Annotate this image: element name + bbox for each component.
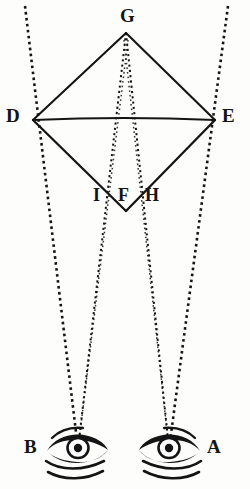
point-label-B: B — [24, 437, 37, 456]
point-label-D: D — [6, 106, 20, 125]
ray-inner-left — [78, 33, 126, 449]
point-label-G: G — [120, 6, 135, 25]
point-label-A: A — [207, 437, 221, 456]
vision-diagram-svg — [0, 0, 250, 489]
figure-root: G D E F I H B A — [0, 0, 250, 489]
eye-right — [139, 428, 201, 478]
eye-left-pupil — [74, 444, 82, 452]
eye-right-pupil — [165, 444, 173, 452]
point-label-F: F — [118, 186, 129, 204]
ray-cross-right — [124, 40, 169, 449]
point-label-H: H — [145, 186, 159, 204]
eye-left — [46, 428, 108, 478]
point-label-I: I — [93, 186, 100, 204]
ray-cross-left — [78, 40, 128, 449]
eye-right-cheek-line-2 — [144, 471, 199, 478]
edge-G-E — [126, 33, 215, 120]
ray-outer-right — [169, 6, 228, 449]
chord-D-E — [33, 118, 215, 120]
ray-inner-right — [126, 33, 169, 449]
point-label-E: E — [222, 106, 235, 125]
edge-G-D — [33, 33, 126, 120]
dotted-rays-group — [25, 6, 228, 449]
eye-left-cheek-line-2 — [48, 471, 103, 478]
ray-outer-left — [25, 6, 78, 449]
